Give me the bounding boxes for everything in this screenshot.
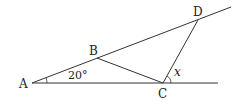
point-d-label: D [193, 6, 203, 18]
geometry-diagram: A B C D 20° x [0, 0, 239, 102]
point-a-label: A [19, 78, 28, 90]
point-b-label: B [89, 45, 98, 57]
angle-a-label: 20° [68, 70, 88, 81]
diagram-lines [0, 0, 239, 102]
point-c-label: C [158, 88, 167, 100]
angle-x-label: x [174, 66, 181, 78]
